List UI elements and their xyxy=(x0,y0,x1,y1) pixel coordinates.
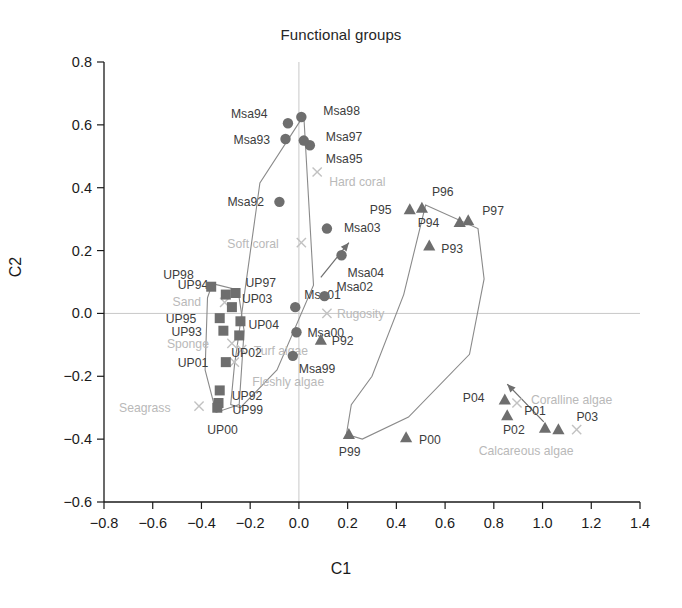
square-marker xyxy=(235,316,245,326)
y-tick-label: −0.2 xyxy=(63,368,92,384)
triangle-marker xyxy=(416,202,428,213)
y-tick-label: 0.8 xyxy=(72,54,92,70)
point-label: Msa97 xyxy=(326,130,363,144)
x-tick-label: 0.2 xyxy=(338,515,358,531)
point-p00: P00 xyxy=(400,431,441,446)
x-tick-label: 1.0 xyxy=(532,515,552,531)
x-tick-label: −0.8 xyxy=(90,515,119,531)
point-label: UP00 xyxy=(207,423,238,437)
point-label: UP01 xyxy=(178,356,209,370)
env-variable-label: Calcareous algae xyxy=(479,444,574,458)
point-label: P02 xyxy=(503,423,525,437)
point-p04: P04 xyxy=(463,391,511,405)
env-variable-sand: Sand xyxy=(173,295,230,309)
env-variable-label: Sand xyxy=(173,295,201,309)
point-label: UP93 xyxy=(171,325,202,339)
y-tick-label: −0.6 xyxy=(63,494,92,510)
triangle-marker xyxy=(501,409,513,420)
point-msa04: Msa04 xyxy=(336,250,384,280)
point-msa94: Msa94 xyxy=(231,107,293,128)
circle-marker xyxy=(299,135,309,145)
point-label: P01 xyxy=(524,404,546,418)
square-marker xyxy=(231,288,241,298)
point-msa03: Msa03 xyxy=(322,221,381,235)
env-variable-label: Hard coral xyxy=(329,175,385,189)
x-tick-label: 0.6 xyxy=(435,515,455,531)
env-variable-label: Turf algae xyxy=(254,344,309,358)
env-variable-soft-coral: Soft coral xyxy=(227,237,306,251)
y-tick-label: 0.0 xyxy=(72,305,92,321)
sample-point-markers: Msa92Msa93Msa94Msa95Msa97Msa98Msa99Msa00… xyxy=(163,104,598,459)
point-label: Msa93 xyxy=(234,133,271,147)
env-variable-sponge: Sponge xyxy=(167,337,237,351)
point-p95: P95 xyxy=(370,203,416,217)
point-up04: UP04 xyxy=(235,316,279,332)
point-p97: P97 xyxy=(462,204,504,226)
point-label: UP95 xyxy=(166,312,197,326)
env-variable-calcareous-algae: Calcareous algae xyxy=(479,425,582,458)
square-marker xyxy=(206,282,216,292)
x-tick-label: 0.4 xyxy=(386,515,406,531)
scatter-plot-canvas: Hard coralSoft coralRugositySandSpongeTu… xyxy=(0,0,682,608)
point-label: Msa03 xyxy=(344,221,381,235)
point-msa98: Msa98 xyxy=(296,104,360,122)
env-variable-hard-coral: Hard coral xyxy=(313,167,386,189)
point-up93: UP93 xyxy=(171,325,228,339)
triangle-marker xyxy=(400,431,412,442)
x-tick-label: −0.4 xyxy=(187,515,216,531)
square-marker xyxy=(221,357,231,367)
env-variable-label: Soft coral xyxy=(227,237,278,251)
point-label: P96 xyxy=(432,185,454,199)
point-label: P99 xyxy=(339,445,361,459)
x-tick-label: −0.2 xyxy=(236,515,265,531)
arrow-head xyxy=(341,243,349,252)
point-label: Msa95 xyxy=(326,152,363,166)
msa-trajectory-arrow xyxy=(321,243,349,278)
square-marker xyxy=(218,326,228,336)
triangle-marker xyxy=(499,394,511,405)
point-p94: P94 xyxy=(418,216,466,230)
square-marker xyxy=(212,403,222,413)
circle-marker xyxy=(280,134,290,144)
point-up01: UP01 xyxy=(178,356,231,370)
point-label: P95 xyxy=(370,203,392,217)
point-label: P00 xyxy=(419,433,441,447)
y-tick-label: −0.4 xyxy=(63,431,92,447)
x-axis-label: C1 xyxy=(0,560,682,578)
functional-groups-figure: Functional groups Hard coralSoft coralRu… xyxy=(0,0,682,608)
point-msa01: Msa01 xyxy=(290,288,341,312)
point-up95: UP95 xyxy=(166,312,225,326)
point-label: Msa94 xyxy=(231,107,268,121)
square-marker xyxy=(227,302,237,312)
point-label: Msa99 xyxy=(299,362,336,376)
point-p99: P99 xyxy=(339,428,361,459)
point-label: UP02 xyxy=(231,346,262,360)
x-tick-label: 0.0 xyxy=(289,515,309,531)
point-label: UP99 xyxy=(233,403,264,417)
point-label: P04 xyxy=(463,391,485,405)
point-p02: P02 xyxy=(503,422,551,437)
point-label: P93 xyxy=(441,242,463,256)
y-axis-label: C2 xyxy=(7,237,25,297)
env-variable-label: Seagrass xyxy=(119,401,171,415)
x-tick-label: −0.6 xyxy=(138,515,167,531)
point-msa95: Msa95 xyxy=(305,140,363,166)
circle-marker xyxy=(322,223,332,233)
y-tick-label: 0.4 xyxy=(72,180,92,196)
point-label: Msa02 xyxy=(336,280,373,294)
triangle-marker xyxy=(404,203,416,214)
triangle-marker xyxy=(462,214,474,225)
point-label: P03 xyxy=(576,410,598,424)
circle-marker xyxy=(319,291,329,301)
env-variable-label: Fleshly algae xyxy=(252,375,324,389)
x-tick-label: 1.2 xyxy=(581,515,601,531)
x-tick-label: 0.8 xyxy=(484,515,504,531)
circle-marker xyxy=(283,118,293,128)
env-variable-label: Sponge xyxy=(167,337,209,351)
env-variable-rugosity: Rugosity xyxy=(322,307,385,321)
triangle-marker xyxy=(552,423,564,434)
point-label: UP92 xyxy=(232,389,263,403)
point-msa99: Msa99 xyxy=(288,351,336,376)
env-variable-label: Rugosity xyxy=(337,307,385,321)
circle-marker xyxy=(296,112,306,122)
